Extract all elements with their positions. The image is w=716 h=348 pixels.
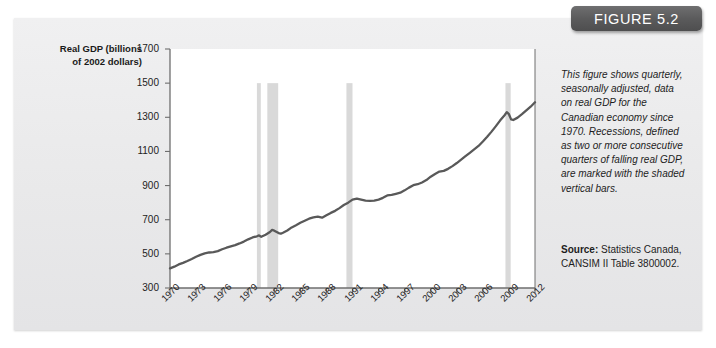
y-tick-label: 1500: [123, 77, 159, 88]
figure-container: FIGURE 5.2 Real GDP (billions of 2002 do…: [0, 0, 716, 348]
y-tick-label: 1700: [123, 43, 159, 54]
recession-bar: [257, 83, 261, 288]
recession-bar: [267, 83, 278, 288]
figure-number-badge: FIGURE 5.2: [571, 6, 702, 31]
y-axis-title-line2: of 2002 dollars): [32, 56, 142, 69]
figure-source: Source: Statistics Canada, CANSIM II Tab…: [561, 243, 687, 271]
y-tick-label: 500: [123, 248, 159, 259]
y-tick-label: 900: [123, 180, 159, 191]
y-tick-label: 1300: [123, 111, 159, 122]
y-tick-label: 300: [123, 282, 159, 293]
y-tick-label: 700: [123, 214, 159, 225]
figure-number-label: FIGURE 5.2: [594, 11, 679, 27]
y-tick-label: 1100: [123, 145, 159, 156]
figure-caption: This figure shows quarterly, seasonally …: [561, 68, 687, 196]
recession-bar: [346, 83, 352, 288]
source-label: Source:: [561, 244, 598, 255]
